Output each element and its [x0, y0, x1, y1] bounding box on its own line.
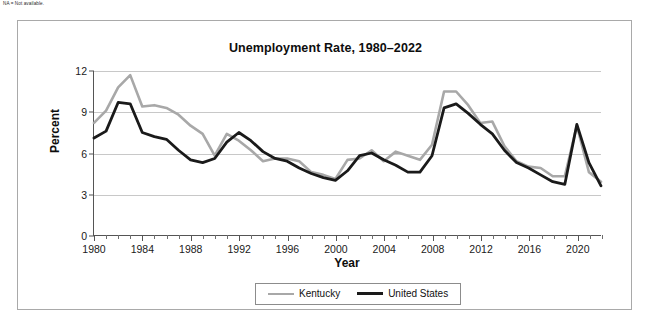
x-tick-label-1980: 1980: [82, 243, 105, 255]
line-united-states: [94, 102, 601, 185]
y-tick-label-6: 6: [81, 148, 87, 160]
y-tick-label-9: 9: [81, 106, 87, 118]
x-tick-minor-1982: [118, 235, 119, 239]
x-tick-minor-1987: [179, 235, 180, 239]
x-tick-minor-2010: [457, 235, 458, 239]
x-tick-minor-2002: [360, 235, 361, 239]
x-tick-minor-1995: [275, 235, 276, 239]
legend-label-united-states: United States: [388, 288, 448, 299]
y-tick-label-0: 0: [81, 230, 87, 242]
x-tick-minor-2003: [372, 235, 373, 239]
x-tick-minor-1981: [106, 235, 107, 239]
legend-swatch-united-states: [357, 292, 383, 295]
x-tick-label-2012: 2012: [469, 243, 492, 255]
x-tick-minor-1983: [130, 235, 131, 239]
x-tick-minor-2006: [408, 235, 409, 239]
x-tick-label-1984: 1984: [131, 243, 154, 255]
x-tick-minor-2021: [590, 235, 591, 239]
legend-item-0: Kentucky: [268, 288, 340, 299]
x-tick-minor-1997: [300, 235, 301, 239]
x-tick-minor-1999: [324, 235, 325, 239]
x-tick-major-2016: [529, 235, 530, 241]
x-tick-minor-2019: [566, 235, 567, 239]
chart-frame: Unemployment Rate, 1980–2022 Percent Yea…: [17, 20, 632, 310]
x-tick-major-2020: [578, 235, 579, 241]
y-axis-label: Percent: [48, 109, 62, 153]
x-tick-minor-2007: [421, 235, 422, 239]
x-tick-minor-2017: [542, 235, 543, 239]
x-tick-major-1992: [239, 235, 240, 241]
x-tick-major-2012: [481, 235, 482, 241]
x-tick-label-2016: 2016: [518, 243, 541, 255]
x-tick-minor-1998: [312, 235, 313, 239]
x-tick-minor-2022: [602, 235, 603, 239]
x-axis-label: Year: [93, 256, 601, 270]
x-tick-minor-1993: [251, 235, 252, 239]
x-tick-major-1984: [142, 235, 143, 241]
x-tick-major-1988: [191, 235, 192, 241]
x-tick-minor-2011: [469, 235, 470, 239]
x-tick-label-2004: 2004: [373, 243, 396, 255]
y-tick-label-3: 3: [81, 189, 87, 201]
x-tick-minor-2001: [348, 235, 349, 239]
x-tick-minor-1994: [263, 235, 264, 239]
plot-wrapper: 036912 198019841988199219962000200420082…: [93, 71, 601, 236]
plot-area: 036912 198019841988199219962000200420082…: [93, 71, 601, 236]
x-tick-minor-2018: [554, 235, 555, 239]
x-tick-minor-1989: [203, 235, 204, 239]
x-tick-label-2000: 2000: [324, 243, 347, 255]
legend-swatch-kentucky: [268, 293, 294, 295]
x-tick-major-2000: [336, 235, 337, 241]
x-tick-minor-2005: [396, 235, 397, 239]
x-tick-label-1988: 1988: [179, 243, 202, 255]
x-tick-major-1980: [94, 235, 95, 241]
x-tick-major-2008: [433, 235, 434, 241]
x-tick-minor-2015: [517, 235, 518, 239]
legend-item-1: United States: [357, 288, 448, 299]
series-lines: [94, 71, 601, 235]
x-tick-major-2004: [384, 235, 385, 241]
x-tick-minor-2013: [493, 235, 494, 239]
x-tick-minor-1991: [227, 235, 228, 239]
chart-title: Unemployment Rate, 1980–2022: [18, 41, 633, 55]
x-tick-minor-2014: [505, 235, 506, 239]
footnote-na: NA = Not available.: [3, 1, 44, 6]
x-tick-minor-1986: [167, 235, 168, 239]
x-tick-label-1992: 1992: [227, 243, 250, 255]
x-tick-major-1996: [288, 235, 289, 241]
x-tick-label-2020: 2020: [566, 243, 589, 255]
x-tick-label-2008: 2008: [421, 243, 444, 255]
x-tick-minor-1985: [154, 235, 155, 239]
legend-label-kentucky: Kentucky: [299, 288, 340, 299]
x-tick-label-1996: 1996: [276, 243, 299, 255]
y-tick-label-12: 12: [75, 65, 87, 77]
chart-legend: Kentucky United States: [255, 283, 461, 305]
x-tick-minor-2009: [445, 235, 446, 239]
x-tick-minor-1990: [215, 235, 216, 239]
